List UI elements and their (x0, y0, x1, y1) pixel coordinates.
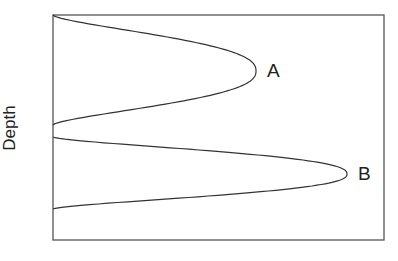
curve-a (53, 15, 256, 125)
diagram-canvas (0, 0, 398, 261)
peak-label-a: A (267, 60, 280, 82)
peak-label-b: B (358, 163, 371, 185)
curve-b (53, 137, 347, 209)
plot-frame (53, 15, 384, 240)
y-axis-label: Depth (0, 105, 20, 150)
